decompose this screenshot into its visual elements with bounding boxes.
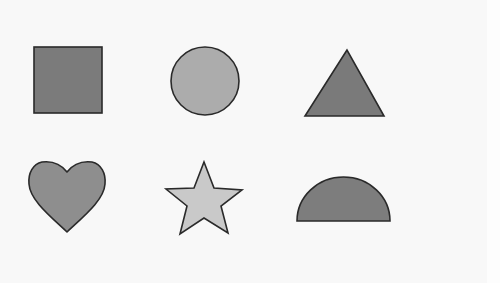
star-shape bbox=[166, 162, 242, 234]
shapes-canvas bbox=[0, 0, 500, 283]
circle-shape bbox=[171, 47, 239, 115]
heart-shape bbox=[29, 162, 105, 232]
square-shape bbox=[34, 47, 102, 113]
triangle-shape bbox=[305, 50, 384, 116]
shapes-diagram bbox=[0, 0, 500, 283]
semicircle-shape bbox=[297, 177, 390, 221]
